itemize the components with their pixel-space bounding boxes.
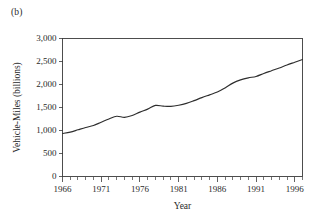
figure-panel: (b) 05001,0001,5002,0002,5003,000 196619… (0, 0, 314, 213)
x-tick-label: 1996 (286, 184, 305, 194)
x-axis-ticks (63, 177, 303, 182)
y-tick-label: 2,500 (36, 56, 57, 66)
x-tick-label: 1971 (92, 184, 110, 194)
series-vehicle-miles (63, 59, 303, 133)
y-axis-tick-labels: 05001,0001,5002,0002,5003,000 (36, 33, 57, 181)
line-chart: 05001,0001,5002,0002,5003,000 1966197119… (0, 0, 314, 213)
y-tick-label: 3,000 (36, 33, 57, 43)
x-tick-label: 1976 (131, 184, 150, 194)
x-tick-label: 1981 (170, 184, 188, 194)
x-tick-label: 1986 (208, 184, 227, 194)
y-tick-label: 1,000 (36, 125, 57, 135)
x-tick-label: 1991 (247, 184, 265, 194)
data-series-line (63, 59, 303, 133)
x-axis-tick-labels: 1966197119761981198619911996 (54, 184, 305, 194)
y-tick-label: 1,500 (36, 102, 57, 112)
plot-frame (63, 39, 303, 177)
y-tick-label: 500 (43, 148, 57, 158)
y-tick-label: 2,000 (36, 79, 57, 89)
x-axis-title: Year (174, 201, 192, 211)
x-tick-label: 1966 (54, 184, 73, 194)
y-axis-title: Vehicle-Miles (billions) (12, 62, 23, 153)
y-tick-label: 0 (52, 171, 57, 181)
y-axis-ticks (59, 39, 63, 177)
